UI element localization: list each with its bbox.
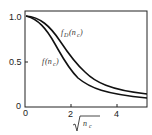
annotation-f-D: f D (n c ) <box>61 28 83 38</box>
svg-text:n: n <box>83 119 87 128</box>
x-tick-label-0: 0 <box>23 108 28 118</box>
svg-text:(n: (n <box>45 57 52 66</box>
svg-text:(n: (n <box>69 28 76 37</box>
y-tick-label-0: 0 <box>16 101 21 111</box>
svg-text:c: c <box>89 123 92 129</box>
x-tick-label-2: 2 <box>68 109 73 119</box>
paren-close: ) <box>55 57 59 66</box>
x-axis-label: n c <box>73 116 100 131</box>
y-tick-label-0.5: 0.5 <box>9 57 22 67</box>
chart: 1.0 0.5 0 0 2 4 n c f D (n c ) f (n c ) <box>0 0 152 135</box>
annotation-f: f (n c ) <box>42 57 59 67</box>
paren-close: ) <box>79 28 83 37</box>
y-tick-label-1.0: 1.0 <box>9 12 22 22</box>
x-tick-label-4: 4 <box>114 109 119 119</box>
